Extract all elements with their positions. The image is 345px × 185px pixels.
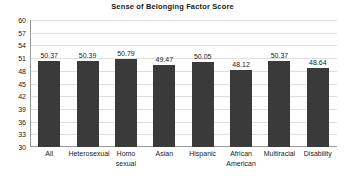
y-axis-tick-label: 42 — [18, 93, 26, 100]
y-axis-tick-label: 33 — [18, 131, 26, 138]
x-axis-category-label-line: Homo — [107, 149, 145, 159]
bar-value-label: 50.79 — [117, 50, 135, 57]
bar-chart: Sense of Belonging Factor Score 60575451… — [0, 0, 345, 185]
bar-value-label: 48.12 — [232, 61, 250, 68]
bar-group: 50.37 — [260, 20, 298, 147]
x-axis-category-label: Asian — [145, 149, 183, 159]
bar[interactable] — [115, 59, 137, 147]
y-axis-tick-label: 60 — [18, 17, 26, 24]
x-axis-category-label-line: American — [222, 159, 260, 169]
bar-group: 50.37 — [30, 20, 68, 147]
x-axis-category-label-line: Asian — [145, 149, 183, 159]
y-axis-tick-label: 39 — [18, 105, 26, 112]
chart-title: Sense of Belonging Factor Score — [0, 2, 345, 11]
x-axis-category-label: All — [30, 149, 68, 159]
bar-value-label: 49.47 — [156, 56, 174, 63]
bar-group: 48.64 — [299, 20, 337, 147]
bar[interactable] — [268, 61, 290, 147]
y-axis-tick-label: 36 — [18, 118, 26, 125]
bar-group: 49.47 — [145, 20, 183, 147]
x-axis-category-label-line: Multiracial — [260, 149, 298, 159]
x-axis-category-label-line: sexual — [107, 159, 145, 169]
bar-value-label: 50.05 — [194, 53, 212, 60]
bar-value-label: 50.39 — [79, 52, 97, 59]
bar-group: 50.39 — [68, 20, 106, 147]
x-axis-category-label: Disability — [299, 149, 337, 159]
bar[interactable] — [192, 62, 214, 147]
bars-layer: 50.3750.3950.7949.4750.0548.1250.3748.64 — [30, 20, 337, 147]
bar-value-label: 50.37 — [271, 52, 289, 59]
y-axis-tick-label: 54 — [18, 42, 26, 49]
y-axis-tick-label: 51 — [18, 55, 26, 62]
x-axis-category-label: Heterosexual — [68, 149, 106, 159]
x-axis-category-label-line: Disability — [299, 149, 337, 159]
bar-group: 50.79 — [107, 20, 145, 147]
x-axis-category-label: Hispanic — [184, 149, 222, 159]
bar-group: 48.12 — [222, 20, 260, 147]
x-axis-category-label-line: Heterosexual — [68, 149, 106, 159]
bar-value-label: 50.37 — [40, 52, 58, 59]
x-axis-category-labels: AllHeterosexualHomosexualAsianHispanicAf… — [30, 149, 337, 183]
bar[interactable] — [77, 61, 99, 147]
x-axis-category-label-line: African — [222, 149, 260, 159]
y-axis-tick-label: 57 — [18, 29, 26, 36]
bar[interactable] — [307, 68, 329, 147]
y-axis-tick-labels: 6057545148454239363330 — [0, 20, 28, 147]
x-axis-category-label-line: All — [30, 149, 68, 159]
bar-group: 50.05 — [184, 20, 222, 147]
y-axis-tick-label: 30 — [18, 144, 26, 151]
x-axis-category-label-line: Hispanic — [184, 149, 222, 159]
bar[interactable] — [230, 70, 252, 147]
y-axis-tick-label: 48 — [18, 67, 26, 74]
x-axis-category-label: Homosexual — [107, 149, 145, 168]
y-axis-tick-label: 45 — [18, 80, 26, 87]
bar[interactable] — [38, 61, 60, 147]
bar-value-label: 48.64 — [309, 59, 327, 66]
x-axis-category-label: Multiracial — [260, 149, 298, 159]
x-axis-category-label: AfricanAmerican — [222, 149, 260, 168]
bar[interactable] — [153, 65, 175, 147]
